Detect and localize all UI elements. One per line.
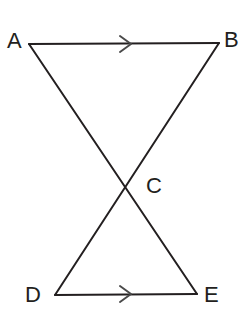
segment-ae — [29, 44, 197, 294]
vertex-label-b: B — [224, 27, 239, 52]
vertex-label-c: C — [146, 173, 162, 198]
vertex-label-d: D — [25, 282, 41, 307]
vertex-label-a: A — [7, 28, 22, 53]
segment-bd — [55, 43, 219, 295]
figure-canvas: A B C D E — [0, 0, 248, 317]
vertex-label-e: E — [204, 282, 219, 307]
segment-de — [55, 294, 197, 295]
segment-ab — [29, 43, 219, 44]
geometry-diagram: A B C D E — [0, 0, 248, 317]
